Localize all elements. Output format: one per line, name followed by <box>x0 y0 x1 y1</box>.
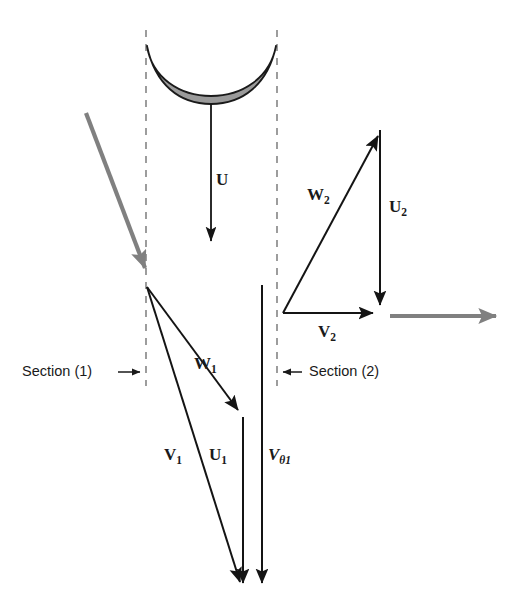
diagram-canvas: U W1 V1 U1 Vθ1 W2 U2 V2 Section ( <box>0 0 520 606</box>
velocity-diagram-figure: U W1 V1 U1 Vθ1 W2 U2 V2 Section ( <box>0 0 520 606</box>
vector-U-label: U <box>216 170 228 189</box>
figure-background <box>0 0 520 606</box>
section-1-label: Section (1) <box>22 363 92 379</box>
section-2-label: Section (2) <box>309 363 379 379</box>
